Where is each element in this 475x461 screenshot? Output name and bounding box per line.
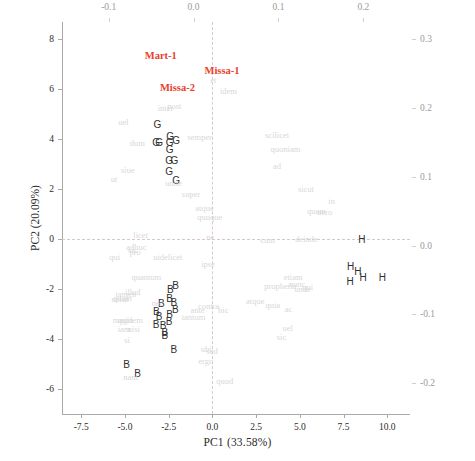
x-tick-label: 5.0 [294, 422, 306, 432]
y-axis-line [62, 22, 63, 414]
x-tick [212, 414, 213, 418]
loading-word: atque [246, 297, 264, 306]
loading-word: sicut [298, 185, 314, 194]
x-tick-label: -7.5 [74, 422, 89, 432]
loading-word: qui [302, 283, 313, 292]
x-tick-label: 0.0 [206, 422, 218, 432]
secondary-y-tick [412, 39, 416, 40]
x-tick [300, 414, 301, 418]
secondary-y-tick-label: 0.2 [420, 103, 432, 113]
secondary-x-tick [363, 18, 364, 22]
loading-word: idem [220, 87, 237, 96]
y-tick-label: 8 [49, 34, 54, 44]
data-point-G: G [166, 145, 174, 155]
secondary-x-tick-label: 0.2 [357, 2, 369, 12]
loading-word: super [182, 190, 200, 199]
secondary-y-tick-label: 0.0 [420, 241, 432, 251]
loading-word: uero [317, 208, 332, 217]
loading-word: quod [216, 377, 233, 386]
y-tick [58, 339, 62, 340]
x-tick-label: 2.5 [250, 422, 262, 432]
loading-word: ac [285, 304, 293, 313]
x-axis-line [62, 414, 410, 415]
loading-word: licet [133, 230, 148, 239]
x-tick [125, 414, 126, 418]
x-tick [387, 414, 388, 418]
loading-word: post [167, 101, 181, 110]
y-tick [58, 239, 62, 240]
data-point-H: H [360, 273, 367, 283]
loading-word: ne [206, 232, 214, 241]
y-tick-label: -2 [46, 284, 54, 294]
x-tick [344, 414, 345, 418]
y-axis-title: PC2 (20.09%) [29, 185, 41, 251]
pca-biplot-figure: PC2 (20.09%) PC1 (33.58%) 86420-2-4-6 -7… [0, 0, 475, 461]
data-point-B: B [172, 281, 179, 291]
secondary-x-tick-label: 0.1 [273, 2, 285, 12]
x-tick-label: -2.5 [161, 422, 176, 432]
loading-word: nam [123, 372, 138, 381]
secondary-y-tick [412, 383, 416, 384]
loading-word: nec [151, 299, 163, 308]
loading-word: sed [206, 347, 217, 356]
x-tick-label: 10.0 [379, 422, 396, 432]
y-tick-label: 0 [49, 234, 54, 244]
loading-word: deinde [295, 234, 318, 243]
loading-word: quantum [131, 273, 161, 282]
loading-word: semper [188, 133, 213, 142]
y-tick [58, 139, 62, 140]
secondary-x-tick [109, 18, 110, 22]
y-tick-label: -6 [46, 384, 54, 394]
y-tick-label: 2 [49, 184, 54, 194]
loading-word: uel [282, 324, 292, 333]
loading-word: nisi [128, 324, 140, 333]
loading-word: siue [121, 166, 135, 175]
y-tick-label: 6 [49, 84, 54, 94]
data-point-H: H [347, 277, 354, 287]
loading-word: hic [218, 305, 228, 314]
secondary-y-tick [412, 246, 416, 247]
loading-word: unde [165, 179, 182, 188]
plot-area: 86420-2-4-6 -7.5-5.0-2.50.02.55.07.510.0… [62, 22, 410, 414]
loading-word: ergo [198, 357, 213, 366]
secondary-y-tick [412, 108, 416, 109]
data-point-G: G [153, 120, 161, 130]
loading-word: uidelicet [153, 253, 182, 262]
secondary-y-tick-label: -0.1 [420, 309, 435, 319]
loading-word: quoniam [271, 145, 301, 154]
loading-word: quia [265, 301, 280, 310]
loading-word: ipse [201, 259, 215, 268]
y-axis-title-container: PC2 (20.09%) [6, 22, 22, 414]
loading-word: atque [195, 204, 213, 213]
data-point-B: B [153, 320, 160, 330]
data-point-G: G [155, 138, 163, 148]
secondary-x-tick-label: 0.0 [188, 2, 200, 12]
loading-word: ad [273, 162, 281, 171]
x-tick [256, 414, 257, 418]
x-tick-label: 7.5 [338, 422, 350, 432]
y-tick [58, 39, 62, 40]
secondary-y-tick [412, 314, 416, 315]
loading-word: scilicet [265, 131, 289, 140]
x-tick [81, 414, 82, 418]
secondary-y-tick [412, 177, 416, 178]
data-point-H: H [379, 273, 386, 283]
loading-word: sic [277, 333, 286, 342]
secondary-y-tick-label: 0.3 [420, 34, 432, 44]
loading-word: quoque [197, 213, 222, 222]
loading-word: pro [129, 248, 140, 257]
loading-word: uelut [112, 294, 129, 303]
x-axis-title: PC1 (33.58%) [0, 436, 475, 448]
secondary-x-tick [194, 18, 195, 22]
loading-word: in [328, 196, 335, 205]
loading-word: tantum [182, 313, 206, 322]
secondary-x-tick [278, 18, 279, 22]
loading-word: si [124, 335, 130, 344]
y-tick [58, 89, 62, 90]
group-label-mart-1: Mart-1 [145, 50, 177, 61]
group-label-missa-2: Missa-2 [160, 83, 195, 94]
loading-word: qui [109, 253, 120, 262]
x-tick-label: -5.0 [117, 422, 132, 432]
data-point-B: B [171, 345, 178, 355]
loading-word: cum [260, 235, 275, 244]
